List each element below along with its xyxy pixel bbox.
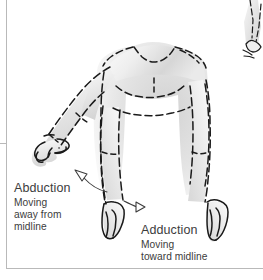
- abduction-term: Abduction: [14, 181, 71, 196]
- anatomy-figure: [0, 0, 263, 280]
- abduction-label: Abduction Moving away from midline: [14, 181, 71, 233]
- abduction-desc-line2: away from: [14, 209, 71, 221]
- adduction-arrow: [124, 201, 145, 212]
- adduction-term: Adduction: [141, 223, 207, 238]
- diagram-page: Abduction Moving away from midline Adduc…: [0, 0, 263, 280]
- abduction-desc-line3: midline: [14, 221, 71, 233]
- adduction-desc-line1: Moving: [141, 239, 207, 251]
- partial-figure-fragment: [243, 0, 261, 58]
- adduction-label: Adduction Moving toward midline: [141, 223, 207, 263]
- abduction-desc-line1: Moving: [14, 197, 71, 209]
- adduction-desc-line2: toward midline: [141, 251, 207, 263]
